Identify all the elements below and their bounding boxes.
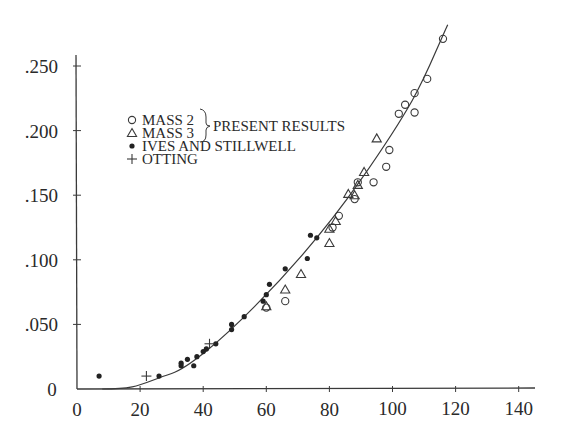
- data-point: [191, 363, 196, 368]
- axes: 0204060801001201400.050.100.150.200.250: [25, 55, 535, 420]
- series-mass-2: [263, 35, 447, 311]
- data-point: [267, 282, 272, 287]
- data-point: [325, 239, 334, 247]
- legend-label: OTTING: [142, 151, 198, 167]
- data-point: [229, 322, 234, 327]
- data-point: [305, 256, 310, 261]
- data-point: [370, 179, 377, 186]
- data-point: [194, 354, 199, 359]
- data-point: [141, 371, 151, 381]
- data-point: [242, 314, 247, 319]
- data-point: [296, 270, 305, 278]
- data-point: [261, 299, 266, 304]
- data-point: [386, 146, 393, 153]
- data-point: [402, 101, 409, 108]
- x-tick-label: 80: [320, 399, 339, 420]
- x-tick-label: 60: [257, 399, 276, 420]
- data-point: [96, 373, 101, 378]
- fit-curve: [102, 25, 447, 389]
- legend-marker-filled-circle: [129, 143, 134, 148]
- x-tick-label: 100: [378, 398, 407, 419]
- x-tick-label: 140: [504, 398, 533, 419]
- y-tick-label: .200: [25, 121, 58, 142]
- y-tick-label: .150: [25, 185, 58, 206]
- data-point: [185, 357, 190, 362]
- x-tick-label: 120: [441, 398, 470, 419]
- y-axis-line: [76, 55, 77, 389]
- data-point: [282, 298, 289, 305]
- data-point: [314, 235, 319, 240]
- data-point: [204, 346, 209, 351]
- y-tick-label: .100: [25, 250, 58, 271]
- fit-curve-line: [102, 25, 447, 389]
- legend-marker-open-triangle: [127, 129, 136, 137]
- data-point: [156, 373, 161, 378]
- x-tick-label: 40: [194, 399, 213, 420]
- data-point: [424, 75, 431, 82]
- data-point: [179, 363, 184, 368]
- series-mass-3: [262, 134, 382, 310]
- legend-marker-plus: [127, 154, 137, 164]
- x-tick-label: 0: [72, 399, 82, 420]
- data-point: [395, 110, 402, 117]
- legend: MASS 2MASS 3IVES AND STILLWELLOTTINGPRES…: [127, 109, 345, 167]
- data-point: [411, 109, 418, 116]
- legend-group-label: PRESENT RESULTS: [213, 118, 345, 134]
- data-point: [229, 327, 234, 332]
- data-point: [308, 233, 313, 238]
- data-point: [264, 292, 269, 297]
- y-tick-label: .250: [25, 56, 58, 77]
- legend-marker-open-circle: [128, 116, 135, 123]
- x-axis-line: [77, 388, 535, 389]
- series-otting: [141, 339, 214, 381]
- data-point: [372, 134, 381, 142]
- y-tick-label: 0: [47, 379, 57, 400]
- y-tick-label: .050: [25, 314, 58, 335]
- data-point: [383, 163, 390, 170]
- data-point: [281, 285, 290, 293]
- series-ives-and-stillwell: [96, 233, 319, 379]
- data-points: [96, 35, 446, 381]
- x-tick-label: 20: [131, 399, 150, 420]
- scatter-chart: 0204060801001201400.050.100.150.200.250 …: [0, 0, 567, 432]
- data-point: [283, 266, 288, 271]
